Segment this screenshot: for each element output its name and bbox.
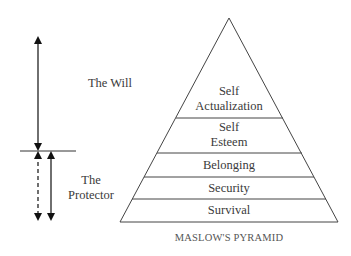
protector-label-line1: The (56, 173, 126, 188)
diagram-canvas (0, 0, 351, 256)
level-self-actualization-line1: Self (179, 84, 279, 99)
level-self-actualization-line2: Actualization (179, 99, 279, 114)
level-security: Security (179, 181, 279, 196)
pyramid-caption: MASLOW'S PYRAMID (159, 232, 299, 243)
protector-label: The Protector (56, 173, 126, 203)
level-survival: Survival (179, 203, 279, 218)
level-belonging: Belonging (179, 158, 279, 173)
protector-label-line2: Protector (56, 188, 126, 203)
level-self-esteem-line1: Self (179, 120, 279, 135)
level-self-esteem-line2: Esteem (179, 135, 279, 150)
level-self-actualization: Self Actualization (179, 84, 279, 114)
level-self-esteem: Self Esteem (179, 120, 279, 150)
will-label: The Will (80, 76, 140, 91)
